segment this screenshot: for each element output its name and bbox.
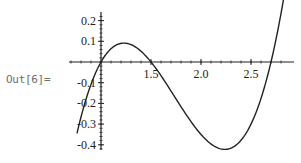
x-tick-label: 2.0 — [194, 67, 209, 81]
y-tick-label: -0.4 — [77, 138, 96, 152]
function-plot: 1.52.02.50.20.1-0.1-0.2-0.3-0.4 — [0, 0, 301, 163]
y-tick-label: 0.2 — [81, 14, 96, 28]
axes — [69, 12, 294, 150]
x-tick-label: 2.5 — [244, 67, 259, 81]
tick-labels: 1.52.02.50.20.1-0.1-0.2-0.3-0.4 — [77, 14, 259, 152]
y-tick-label: 0.1 — [81, 34, 96, 48]
